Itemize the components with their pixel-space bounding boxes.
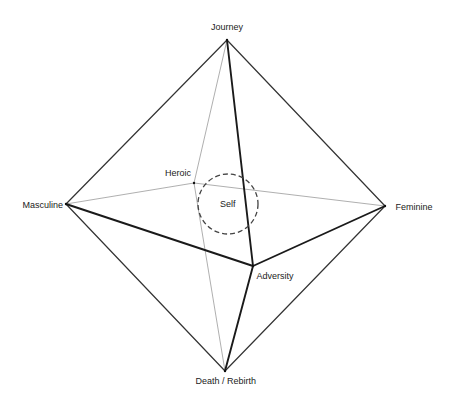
vertex-label-death-rebirth: Death / Rebirth	[196, 377, 257, 386]
edge-masculine-adversity	[66, 204, 253, 266]
edge-adversity-death_rebirth	[225, 266, 253, 371]
vertex-label-journey: Journey	[211, 23, 243, 32]
edge-heroic-masculine	[66, 183, 194, 204]
center-label-self: Self	[220, 200, 236, 209]
vertex-heroic	[193, 182, 195, 184]
edge-adversity-feminine	[253, 206, 385, 266]
vertex-label-feminine: Feminine	[396, 203, 433, 212]
vertex-adversity	[252, 265, 254, 267]
vertex-feminine	[384, 205, 386, 207]
vertex-label-heroic: Heroic	[165, 169, 191, 178]
edge-journey-feminine	[227, 40, 385, 206]
vertex-masculine	[65, 203, 67, 205]
vertex-label-masculine: Masculine	[23, 201, 64, 210]
edge-death_rebirth-masculine	[66, 204, 225, 371]
vertex-death_rebirth	[224, 370, 226, 372]
octahedron-diagram: Journey Heroic Masculine Feminine Advers…	[0, 0, 450, 405]
vertex-label-adversity: Adversity	[257, 272, 294, 281]
vertex-journey	[226, 39, 228, 41]
edge-journey-masculine	[66, 40, 227, 204]
edge-journey-heroic	[194, 40, 227, 183]
